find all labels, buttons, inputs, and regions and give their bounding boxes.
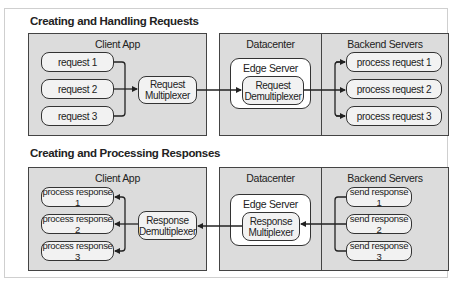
- connector-lines: [0, 0, 454, 286]
